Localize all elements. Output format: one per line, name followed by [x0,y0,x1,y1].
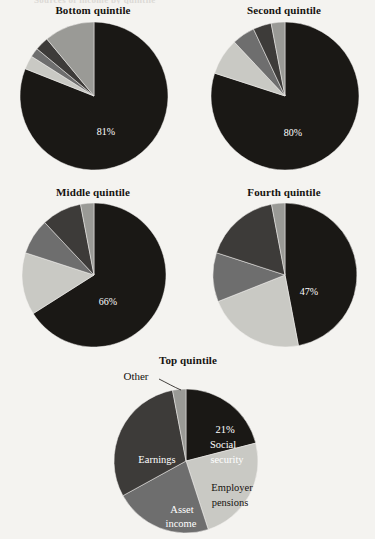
slice-label-social-security-line2: security [210,454,244,465]
chart-panel-second-quintile: Second quintile 80% [195,4,373,184]
slice-label-asset-income-line1: Asset [170,504,193,515]
slice-label-social-security-pct: 21% [215,424,235,435]
pie-center-label-fourth-quintile: 47% [300,286,318,297]
slice-label-employer-pensions-line1: Employer [211,482,253,493]
pie-center-label-middle-quintile: 66% [99,296,117,307]
pie-svg-fourth-quintile: 47% [211,201,359,349]
pie-svg-top-quintile: 21% Social security Employer pensions As… [110,385,262,537]
chart-title-second-quintile: Second quintile [195,4,373,16]
chart-panel-middle-quintile: Middle quintile 66% [4,186,182,354]
chart-panel-top-quintile: Top quintile 21% Social security Employe… [78,354,298,539]
other-leader-line [159,379,181,390]
chart-panel-fourth-quintile: Fourth quintile 47% [195,186,373,354]
pie-svg-middle-quintile: 66% [20,201,168,349]
pie-slice-social-security [285,203,357,346]
pie-svg-second-quintile: 80% [209,20,361,172]
pie-top-quintile: 21% Social security Employer pensions As… [110,385,262,537]
pie-middle-quintile: 66% [20,201,168,349]
pie-center-label-bottom-quintile: 81% [97,126,115,137]
pie-bottom-quintile: 81% [18,20,170,172]
slice-label-earnings: Earnings [138,454,175,465]
chart-title-bottom-quintile: Bottom quintile [4,4,182,16]
chart-title-fourth-quintile: Fourth quintile [195,186,373,198]
pie-svg-bottom-quintile: 81% [18,20,170,172]
chart-panel-bottom-quintile: Bottom quintile 81% [4,4,182,184]
chart-title-middle-quintile: Middle quintile [4,186,182,198]
pie-center-label-second-quintile: 80% [284,127,302,138]
slice-label-social-security-line1: Social [210,439,236,450]
slice-label-asset-income-line2: income [166,518,197,529]
slice-label-other: Other [123,370,148,382]
figure-page: Sources of income by quintile Bottom qui… [0,0,375,539]
slice-label-employer-pensions-line2: pensions [212,497,249,508]
chart-title-top-quintile: Top quintile [78,354,298,366]
pie-fourth-quintile: 47% [211,201,359,349]
pie-second-quintile: 80% [209,20,361,172]
